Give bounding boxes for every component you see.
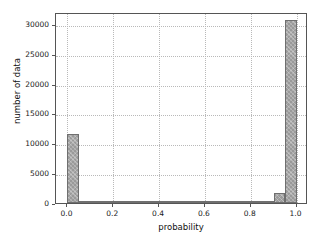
x-tick-label: 0.4 [152, 210, 164, 218]
gridline-vertical [205, 14, 206, 203]
y-tick-label: 30000 [25, 21, 49, 29]
x-axis-label: probability [55, 222, 307, 232]
bar [205, 201, 216, 203]
x-tick-label: 0.2 [106, 210, 118, 218]
bar [228, 201, 239, 203]
bar [79, 201, 90, 203]
y-tick-label: 20000 [25, 81, 49, 89]
x-tick-mark [112, 204, 113, 207]
gridline-vertical [159, 14, 160, 203]
plot-area [55, 13, 307, 204]
y-tick-label: 10000 [25, 140, 49, 148]
y-tick-label: 0 [44, 200, 49, 208]
bar [67, 134, 78, 203]
bar [148, 201, 159, 203]
y-axis-label: number of data [12, 36, 22, 146]
bar [171, 201, 182, 203]
gridline-vertical [251, 14, 252, 203]
y-tick-label: 15000 [25, 110, 49, 118]
x-tick-label: 0.8 [244, 210, 256, 218]
bar [262, 201, 273, 203]
bar [239, 201, 250, 203]
gridline-horizontal [56, 175, 306, 176]
bar [136, 201, 147, 203]
bar [90, 201, 101, 203]
bar [285, 20, 296, 203]
bar [216, 201, 227, 203]
bar [193, 201, 204, 203]
bar [125, 201, 136, 203]
x-tick-mark [250, 204, 251, 207]
y-tick-label: 5000 [30, 170, 49, 178]
x-tick-mark [66, 204, 67, 207]
x-tick-label: 0.0 [60, 210, 72, 218]
gridline-vertical [297, 14, 298, 203]
bar [159, 201, 170, 203]
x-tick-label: 0.6 [198, 210, 210, 218]
x-tick-mark [204, 204, 205, 207]
bar [182, 201, 193, 203]
gridline-vertical [113, 14, 114, 203]
gridline-horizontal [56, 26, 306, 27]
bar [113, 201, 124, 203]
x-tick-mark [296, 204, 297, 207]
gridline-horizontal [56, 86, 306, 87]
y-tick-label: 25000 [25, 51, 49, 59]
gridline-horizontal [56, 115, 306, 116]
histogram-figure: 050001000015000200002500030000 0.00.20.4… [0, 0, 324, 241]
y-tick-mark [52, 204, 55, 205]
bar [274, 193, 285, 203]
bar [102, 201, 113, 203]
x-tick-mark [158, 204, 159, 207]
gridline-horizontal [56, 145, 306, 146]
gridline-horizontal [56, 56, 306, 57]
bar [251, 201, 262, 203]
x-tick-label: 1.0 [290, 210, 302, 218]
